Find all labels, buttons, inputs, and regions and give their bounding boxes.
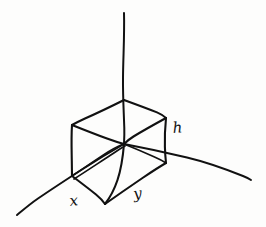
box-edge-top-right-to-top-front [124, 118, 166, 144]
box-edge-top-back-to-top-right [124, 100, 166, 118]
box-edge-top-left-to-top-front [72, 125, 124, 144]
box-edge-hidden-bottom-back-left-echo [74, 146, 125, 179]
label-h: h [172, 118, 183, 137]
hand-drawn-3d-box-diagram: x y h [0, 0, 266, 227]
label-y: y [131, 184, 143, 203]
label-x: x [69, 191, 80, 210]
box-edge-hidden-bottom-back-right [124, 144, 166, 163]
vertical-axis-line [123, 13, 124, 144]
box-edge-top-back-to-top-left [72, 100, 124, 125]
y-axis-line [124, 144, 251, 180]
box-edge-right-vertical-h [165, 118, 166, 163]
figure-root: x y h [0, 0, 266, 227]
